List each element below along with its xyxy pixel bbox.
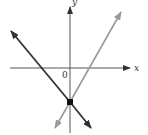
- decreasing-line: [11, 31, 70, 102]
- x-axis-label: x: [134, 63, 139, 73]
- y-axis-label: y: [71, 0, 78, 7]
- coordinate-graph: y x 0: [0, 0, 148, 135]
- intersection-point: [67, 99, 73, 105]
- origin-label: 0: [62, 70, 68, 80]
- increasing-line: [70, 12, 121, 102]
- decreasing-line-lower: [70, 102, 91, 128]
- increasing-line-lower: [55, 102, 70, 128]
